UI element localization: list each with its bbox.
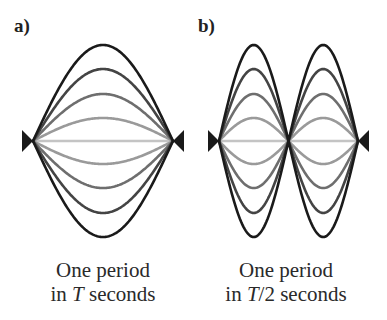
right-fixed-end-anchor-icon bbox=[358, 130, 369, 152]
left-fixed-end-anchor-icon bbox=[22, 130, 33, 152]
caption-a-prefix: in bbox=[50, 282, 72, 306]
caption-a: One period in T seconds bbox=[13, 258, 193, 306]
panel-b-second-harmonic bbox=[208, 45, 369, 237]
caption-b-line1: One period bbox=[196, 258, 376, 282]
wave-curve bbox=[219, 45, 358, 141]
right-fixed-end-anchor-icon bbox=[173, 130, 184, 152]
caption-b-variable-T: T bbox=[247, 282, 259, 306]
panel-a-fundamental-mode bbox=[22, 45, 184, 237]
caption-a-suffix: seconds bbox=[84, 282, 156, 306]
caption-b-prefix: in bbox=[225, 282, 247, 306]
caption-b-line2: in T/2 seconds bbox=[196, 282, 376, 306]
wave-curve bbox=[219, 141, 358, 188]
caption-a-line1: One period bbox=[13, 258, 193, 282]
left-fixed-end-anchor-icon bbox=[208, 130, 219, 152]
wave-curve bbox=[219, 94, 358, 141]
wave-curve bbox=[219, 141, 358, 237]
caption-a-variable-T: T bbox=[72, 282, 84, 306]
standing-wave-figure: a) b) One period in T seconds One period… bbox=[0, 0, 387, 320]
caption-b: One period in T/2 seconds bbox=[196, 258, 376, 306]
caption-b-suffix: /2 seconds bbox=[259, 282, 347, 306]
caption-a-line2: in T seconds bbox=[13, 282, 193, 306]
